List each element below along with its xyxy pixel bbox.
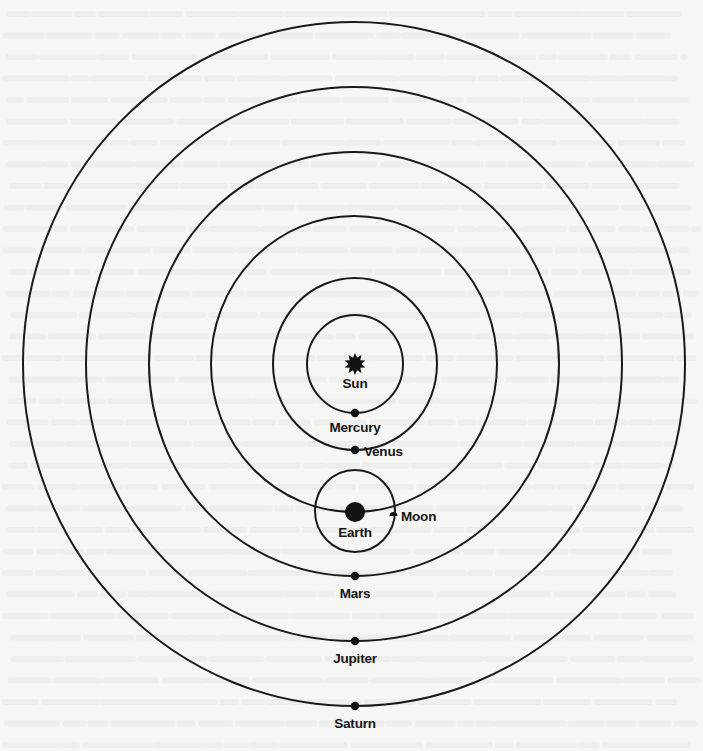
label-moon: Moon [401,509,436,524]
label-mercury: Mercury [329,420,381,435]
label-mars: Mars [340,586,371,601]
label-earth: Earth [338,525,372,540]
label-jupiter: Jupiter [333,651,378,666]
mercury-dot [351,409,359,417]
label-saturn: Saturn [334,716,376,731]
jupiter-dot [351,637,359,645]
earth-dot [345,502,365,522]
label-venus: Venus [364,444,403,459]
moon-dot [390,512,398,516]
venus-dot [351,446,359,454]
label-sun: Sun [343,376,368,391]
mars-dot [351,572,359,580]
planet-mercury: Mercury [329,409,381,435]
heliocentric-diagram: Sun Mercury Venus Earth Moon Mars Jupite… [0,0,703,751]
sun-core [349,358,361,370]
saturn-dot [351,702,359,710]
